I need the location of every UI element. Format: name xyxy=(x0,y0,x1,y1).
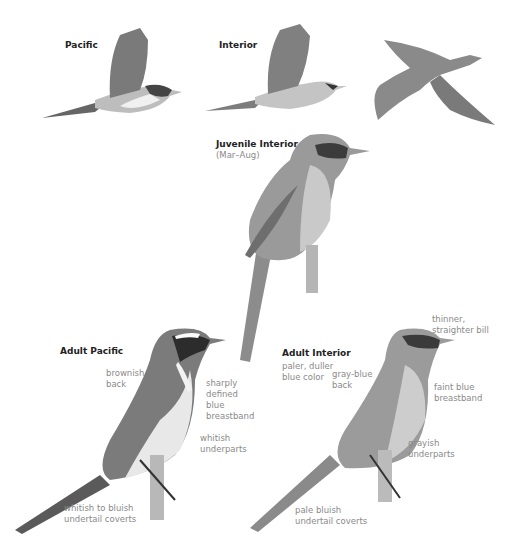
note-pacific-back: brownish back xyxy=(106,368,144,390)
juvenile-interior-illustration xyxy=(240,134,370,362)
note-pacific-breastband: sharply defined blue breastband xyxy=(206,378,254,422)
juvenile-season-label: (Mar–Aug) xyxy=(216,150,260,160)
note-pacific-undertail: whitish to bluish undertail coverts xyxy=(64,503,136,525)
note-interior-bill: thinner, straighter bill xyxy=(432,314,489,336)
note-interior-back: gray-blue back xyxy=(332,369,372,391)
illustration-canvas xyxy=(0,0,520,550)
interior-flight-label: Interior xyxy=(219,40,257,50)
overhead-flight-illustration xyxy=(374,40,495,125)
note-interior-underparts: grayish underparts xyxy=(408,438,455,460)
interior-flight-illustration xyxy=(205,24,347,111)
note-pacific-underparts: whitish underparts xyxy=(200,433,247,455)
note-interior-color: paler, duller blue color xyxy=(282,361,333,383)
note-interior-breastband: faint blue breastband xyxy=(434,382,482,404)
pacific-flight-label: Pacific xyxy=(65,40,98,50)
adult-interior-label: Adult Interior xyxy=(282,348,351,358)
adult-pacific-label: Adult Pacific xyxy=(60,346,123,356)
juvenile-interior-label: Juvenile Interior xyxy=(216,139,298,149)
adult-interior-illustration xyxy=(250,329,455,532)
pacific-flight-illustration xyxy=(42,28,182,118)
note-interior-undertail: pale bluish undertail coverts xyxy=(295,505,367,527)
